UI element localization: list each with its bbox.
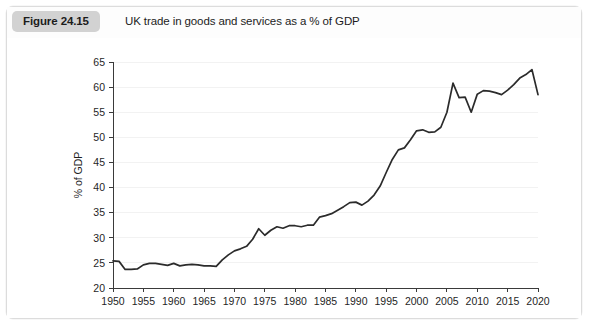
x-tick-label: 2005 xyxy=(435,295,459,307)
y-tick-label: 30 xyxy=(93,232,105,244)
x-tick-label: 2020 xyxy=(526,295,550,307)
y-tick-label: 60 xyxy=(93,81,105,93)
x-tick-label: 1965 xyxy=(192,295,216,307)
y-axis-ticks: 20253035404550556065 xyxy=(93,56,113,294)
figure-card: Figure 24.15 UK trade in goods and servi… xyxy=(6,6,582,319)
x-axis-ticks: 1950195519601965197019751980198519901995… xyxy=(101,288,550,307)
y-tick-label: 55 xyxy=(93,106,105,118)
y-axis-title: % of GDP xyxy=(72,152,84,199)
y-tick-label: 35 xyxy=(93,206,105,218)
figure-caption-title: UK trade in goods and services as a % of… xyxy=(125,11,360,32)
y-tick-label: 45 xyxy=(93,156,105,168)
line-chart: 20253035404550556065 1950195519601965197… xyxy=(7,38,583,319)
x-tick-label: 1985 xyxy=(314,295,338,307)
x-tick-label: 1980 xyxy=(283,295,307,307)
data-series-line xyxy=(113,70,538,270)
x-tick-label: 1975 xyxy=(253,295,277,307)
x-tick-label: 1960 xyxy=(162,295,186,307)
y-tick-label: 50 xyxy=(93,131,105,143)
y-tick-label: 25 xyxy=(93,257,105,269)
x-tick-label: 1995 xyxy=(375,295,399,307)
y-tick-label: 65 xyxy=(93,56,105,68)
x-tick-label: 1970 xyxy=(223,295,247,307)
x-tick-label: 1955 xyxy=(132,295,156,307)
figure-header: Figure 24.15 UK trade in goods and servi… xyxy=(7,7,581,39)
x-tick-label: 2015 xyxy=(496,295,520,307)
gridlines xyxy=(113,62,538,263)
figure-number-badge: Figure 24.15 xyxy=(12,11,100,32)
y-tick-label: 20 xyxy=(93,282,105,294)
x-tick-label: 1990 xyxy=(344,295,368,307)
chart-plot-area: 20253035404550556065 1950195519601965197… xyxy=(7,38,581,318)
x-tick-label: 1950 xyxy=(101,295,125,307)
x-tick-label: 2000 xyxy=(405,295,429,307)
y-tick-label: 40 xyxy=(93,181,105,193)
x-tick-label: 2010 xyxy=(466,295,490,307)
